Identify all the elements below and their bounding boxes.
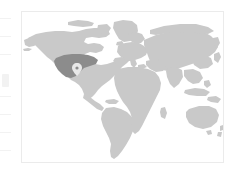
- region-arctic-islands[interactable]: [68, 20, 94, 27]
- edge-rule: [0, 36, 11, 37]
- region-tasmania[interactable]: [206, 130, 212, 135]
- edge-rule: [0, 132, 11, 133]
- region-japan[interactable]: [214, 52, 221, 63]
- edge-rule: [0, 54, 11, 55]
- region-caribbean[interactable]: [105, 99, 119, 104]
- region-india[interactable]: [166, 67, 183, 88]
- world-map-widget[interactable]: [0, 0, 237, 175]
- region-madagascar[interactable]: [160, 107, 167, 119]
- edge-rule: [0, 96, 11, 97]
- region-indonesia[interactable]: [184, 88, 210, 96]
- region-scandinavia[interactable]: [128, 32, 145, 43]
- region-new-zealand-south[interactable]: [217, 132, 222, 137]
- region-central-america[interactable]: [83, 94, 104, 111]
- region-southeast-asia[interactable]: [184, 69, 203, 84]
- map-frame[interactable]: [21, 11, 224, 163]
- location-pin-hole: [75, 66, 78, 69]
- edge-glyph-fragment: [2, 74, 9, 87]
- region-china-east[interactable]: [192, 55, 213, 69]
- region-aleutians[interactable]: [23, 48, 32, 51]
- world-map-svg[interactable]: [22, 12, 223, 162]
- page-edge-fragments: [0, 0, 18, 175]
- region-new-zealand[interactable]: [220, 125, 223, 131]
- region-new-guinea[interactable]: [207, 96, 221, 103]
- edge-rule: [0, 114, 11, 115]
- region-philippines[interactable]: [204, 80, 211, 88]
- edge-rule: [0, 18, 11, 19]
- edge-rule: [0, 150, 11, 151]
- region-italy[interactable]: [130, 59, 137, 68]
- region-south-america[interactable]: [101, 107, 134, 159]
- region-australia[interactable]: [186, 106, 219, 129]
